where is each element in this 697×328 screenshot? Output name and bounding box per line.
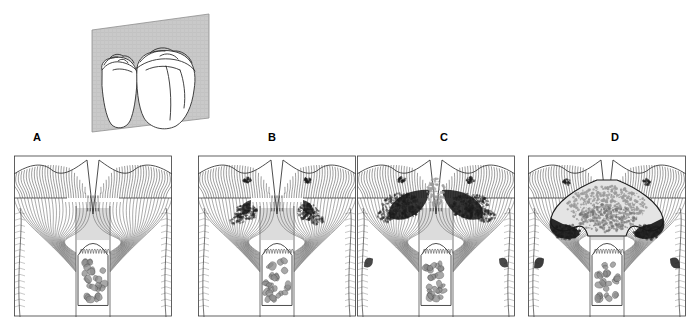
panel-label-d: D: [611, 132, 619, 143]
panel-b-incipient-lesion: [198, 146, 356, 317]
caries-progression-figure: A B C D: [0, 0, 697, 328]
panel-label-a: A: [33, 132, 41, 143]
panel-label-c: C: [440, 132, 448, 143]
panel-a-sound-enamel: [14, 146, 172, 317]
panel-c-dej-spread: [357, 146, 515, 317]
panel-label-b: B: [268, 132, 276, 143]
left-molar: [102, 54, 138, 128]
three-dimensional-molar-inset: [80, 8, 220, 136]
panel-d-cavitation: [528, 146, 686, 317]
